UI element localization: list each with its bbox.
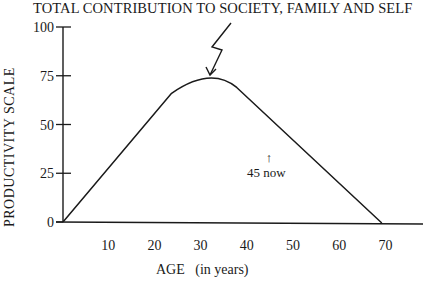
- y-ticks: 0255075100: [33, 20, 71, 230]
- x-tick-label: 30: [194, 238, 208, 253]
- y-tick-label: 50: [40, 118, 54, 133]
- x-ticks: 10203040506070: [101, 238, 392, 253]
- up-arrow-icon: ↑: [257, 151, 281, 164]
- y-tick-label: 75: [40, 69, 54, 84]
- x-tick-label: 60: [332, 238, 346, 253]
- annotation-text: 45 now: [247, 164, 286, 182]
- productivity-curve: [63, 78, 382, 223]
- x-tick-label: 40: [240, 238, 254, 253]
- x-tick-label: 10: [101, 238, 115, 253]
- y-tick-label: 100: [33, 20, 54, 35]
- y-tick-label: 0: [47, 215, 54, 230]
- zigzag-arrow-icon: [206, 23, 231, 75]
- x-axis: [56, 222, 423, 224]
- x-tick-label: 20: [147, 238, 161, 253]
- annotation-45-now: ↑ 45 now: [247, 151, 286, 182]
- y-tick-label: 25: [40, 166, 54, 181]
- x-tick-label: 70: [378, 238, 392, 253]
- chart-canvas: 0255075100 10203040506070: [0, 0, 424, 283]
- x-tick-label: 50: [286, 238, 300, 253]
